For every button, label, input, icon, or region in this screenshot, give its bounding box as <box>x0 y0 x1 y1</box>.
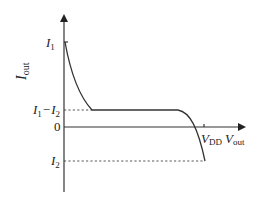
i1-minus-i2-label: I1−I2 <box>32 102 60 119</box>
zero-label: 0 <box>54 119 61 134</box>
i2-label: I2 <box>50 153 60 170</box>
output-current-curve <box>65 42 205 161</box>
x-axis-label: Vout <box>225 131 245 147</box>
vdd-label: VDD <box>201 131 222 147</box>
y-axis-label: Iout <box>14 62 31 81</box>
i1-label: I1 <box>45 35 55 52</box>
iv-characteristic-diagram: Iout I1 I1−I2 0 I2 VDD Vout <box>0 0 254 206</box>
